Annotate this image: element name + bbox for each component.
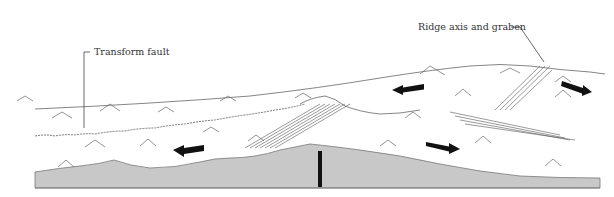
- transform-fault-leader: [84, 52, 90, 128]
- right-ridge-graben: [450, 66, 575, 140]
- arrow-left-lower: [173, 145, 204, 157]
- ridge-axis-label: Ridge axis and graben: [418, 21, 526, 32]
- central-ridge-graben: [245, 104, 350, 148]
- ridge-axis-leader: [511, 27, 544, 62]
- arrow-right-middle: [426, 142, 460, 154]
- transform-fault-line: [35, 104, 305, 136]
- crust-cross-section: [35, 144, 600, 188]
- arrow-right-upper: [561, 81, 592, 96]
- transform-fault-label: Transform fault: [94, 46, 170, 57]
- arrow-left-upper: [392, 84, 424, 95]
- magma-conduit: [318, 151, 322, 187]
- far-surface-line: [35, 65, 605, 110]
